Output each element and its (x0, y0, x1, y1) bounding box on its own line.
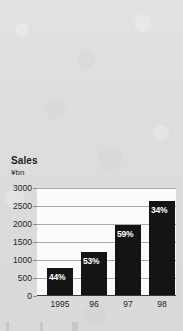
x-axis-tick-label: 96 (75, 299, 113, 309)
y-axis-tickmark (33, 296, 37, 297)
y-axis-tick-label: 1500 (2, 237, 32, 247)
scanned-page: Sales ¥bn 300025002000150010005000 44%53… (0, 0, 183, 331)
gridline (37, 188, 176, 189)
sales-bar-chart: 300025002000150010005000 44%53%59%34% 19… (0, 0, 183, 331)
bar (149, 201, 175, 295)
bar-data-label: 44% (49, 272, 65, 282)
y-axis-tickmark (33, 278, 37, 279)
y-axis-tickmark (33, 206, 37, 207)
y-axis-tickmark (33, 224, 37, 225)
y-axis-tick-label: 2500 (2, 201, 32, 211)
y-axis-tick-label: 500 (2, 273, 32, 283)
y-axis-tickmark (33, 260, 37, 261)
y-axis-tick-label: 3000 (2, 183, 32, 193)
x-axis-tick-label: 98 (143, 299, 181, 309)
y-axis-tickmark (33, 188, 37, 189)
bar-data-label: 53% (83, 256, 99, 266)
y-axis-tick-label: 2000 (2, 219, 32, 229)
y-axis-tickmark (33, 242, 37, 243)
bar-data-label: 34% (151, 205, 167, 215)
y-axis-tick-label: 0 (2, 291, 32, 301)
bar-data-label: 59% (117, 229, 133, 239)
page-edge-artifact (0, 322, 183, 331)
x-axis-tick-label: 1995 (41, 299, 79, 309)
y-axis-tick-label: 1000 (2, 255, 32, 265)
x-axis-line (37, 295, 176, 296)
x-axis-tick-label: 97 (109, 299, 147, 309)
